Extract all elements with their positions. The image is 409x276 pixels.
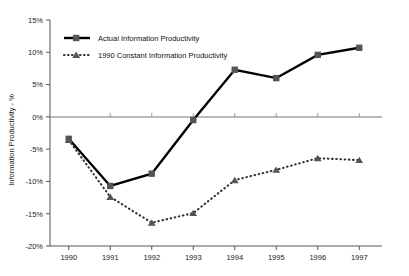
data-point-marker <box>149 170 155 176</box>
legend-label-constant: 1990 Constant Information Productivity <box>98 51 227 60</box>
chart-background <box>0 0 409 276</box>
x-tick-label: 1997 <box>351 253 368 262</box>
data-point-marker <box>315 52 321 58</box>
y-tick-label: 5% <box>32 80 43 89</box>
legend-label-actual: Actual Information Productivity <box>98 34 200 43</box>
y-tick-label: -15% <box>25 210 43 219</box>
y-tick-label: -20% <box>25 242 43 251</box>
x-tick-label: 1994 <box>226 253 243 262</box>
data-point-marker <box>356 45 362 51</box>
x-tick-label: 1996 <box>309 253 326 262</box>
data-point-marker <box>107 183 113 189</box>
x-tick-label: 1991 <box>102 253 119 262</box>
y-tick-label: 10% <box>28 48 43 57</box>
y-tick-label: 0% <box>32 113 43 122</box>
y-tick-label: 15% <box>28 16 43 25</box>
x-tick-label: 1992 <box>143 253 160 262</box>
y-axis-title: Information Productivity - % <box>7 94 16 186</box>
data-point-marker <box>273 75 279 81</box>
legend-swatch-square-marker <box>73 35 79 41</box>
y-tick-label: -10% <box>25 177 43 186</box>
data-point-marker <box>232 67 238 73</box>
x-tick-label: 1995 <box>268 253 285 262</box>
x-tick-label: 1990 <box>60 253 77 262</box>
chart-container: 15%10%5%0%-5%-10%-15%-20% 19901991199219… <box>0 0 409 276</box>
x-tick-label: 1993 <box>185 253 202 262</box>
y-tick-label: -5% <box>30 145 44 154</box>
information-productivity-line-chart: 15%10%5%0%-5%-10%-15%-20% 19901991199219… <box>0 0 409 276</box>
data-point-marker <box>190 117 196 123</box>
